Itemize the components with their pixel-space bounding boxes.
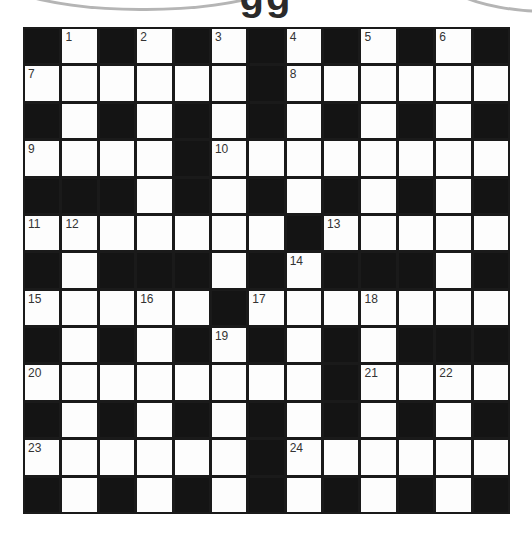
crossword-cell[interactable]: 12	[62, 216, 96, 250]
crossword-cell[interactable]	[249, 365, 283, 399]
crossword-cell[interactable]	[474, 365, 508, 399]
crossword-cell[interactable]	[212, 216, 246, 250]
crossword-cell[interactable]	[361, 104, 395, 138]
crossword-cell[interactable]: 14	[287, 253, 321, 287]
crossword-cell[interactable]: 1	[62, 29, 96, 63]
crossword-cell[interactable]	[324, 141, 358, 175]
crossword-cell[interactable]	[436, 478, 470, 512]
crossword-cell[interactable]	[249, 141, 283, 175]
crossword-cell[interactable]	[436, 216, 470, 250]
crossword-cell[interactable]	[436, 66, 470, 100]
crossword-cell[interactable]	[399, 291, 433, 325]
crossword-cell[interactable]	[137, 328, 171, 362]
crossword-cell[interactable]	[137, 216, 171, 250]
crossword-cell[interactable]	[137, 179, 171, 213]
crossword-cell[interactable]	[474, 216, 508, 250]
crossword-cell[interactable]: 11	[25, 216, 59, 250]
crossword-cell[interactable]	[436, 291, 470, 325]
crossword-cell[interactable]	[212, 478, 246, 512]
crossword-cell[interactable]: 6	[436, 29, 470, 63]
crossword-cell[interactable]	[287, 179, 321, 213]
crossword-cell[interactable]: 24	[287, 440, 321, 474]
crossword-cell[interactable]: 15	[25, 291, 59, 325]
crossword-cell[interactable]	[361, 216, 395, 250]
crossword-cell[interactable]	[361, 66, 395, 100]
crossword-cell[interactable]: 3	[212, 29, 246, 63]
crossword-cell[interactable]	[62, 66, 96, 100]
crossword-cell[interactable]	[62, 403, 96, 437]
crossword-cell[interactable]	[212, 253, 246, 287]
crossword-cell[interactable]	[175, 66, 209, 100]
crossword-cell[interactable]	[62, 328, 96, 362]
crossword-cell[interactable]	[287, 403, 321, 437]
crossword-cell[interactable]	[361, 179, 395, 213]
crossword-cell[interactable]	[287, 478, 321, 512]
crossword-cell[interactable]: 22	[436, 365, 470, 399]
crossword-cell[interactable]	[212, 179, 246, 213]
crossword-cell[interactable]	[287, 365, 321, 399]
crossword-cell[interactable]: 17	[249, 291, 283, 325]
crossword-cell[interactable]	[249, 216, 283, 250]
crossword-cell[interactable]	[137, 66, 171, 100]
crossword-cell[interactable]	[361, 478, 395, 512]
crossword-cell[interactable]	[399, 141, 433, 175]
crossword-cell[interactable]	[399, 440, 433, 474]
crossword-cell[interactable]: 16	[137, 291, 171, 325]
crossword-cell[interactable]	[399, 365, 433, 399]
crossword-cell[interactable]	[324, 291, 358, 325]
crossword-cell[interactable]	[474, 440, 508, 474]
crossword-cell[interactable]	[436, 253, 470, 287]
crossword-cell[interactable]	[175, 216, 209, 250]
crossword-cell[interactable]: 21	[361, 365, 395, 399]
crossword-cell[interactable]	[212, 440, 246, 474]
crossword-cell[interactable]	[212, 365, 246, 399]
crossword-cell[interactable]	[62, 104, 96, 138]
crossword-cell[interactable]: 7	[25, 66, 59, 100]
crossword-cell[interactable]	[287, 328, 321, 362]
crossword-cell[interactable]: 23	[25, 440, 59, 474]
crossword-cell[interactable]	[436, 141, 470, 175]
crossword-cell[interactable]	[62, 440, 96, 474]
crossword-cell[interactable]: 20	[25, 365, 59, 399]
crossword-cell[interactable]	[361, 403, 395, 437]
crossword-cell[interactable]	[212, 403, 246, 437]
crossword-cell[interactable]	[361, 328, 395, 362]
crossword-cell[interactable]	[436, 179, 470, 213]
crossword-cell[interactable]	[212, 66, 246, 100]
crossword-cell[interactable]	[324, 440, 358, 474]
crossword-cell[interactable]	[62, 141, 96, 175]
crossword-cell[interactable]	[474, 291, 508, 325]
crossword-cell[interactable]	[212, 104, 246, 138]
crossword-cell[interactable]	[287, 104, 321, 138]
crossword-cell[interactable]	[287, 141, 321, 175]
crossword-cell[interactable]: 13	[324, 216, 358, 250]
crossword-cell[interactable]	[100, 66, 134, 100]
crossword-cell[interactable]	[62, 365, 96, 399]
crossword-cell[interactable]	[137, 478, 171, 512]
crossword-cell[interactable]	[399, 216, 433, 250]
crossword-cell[interactable]	[324, 66, 358, 100]
crossword-cell[interactable]	[100, 365, 134, 399]
crossword-cell[interactable]	[137, 440, 171, 474]
crossword-cell[interactable]	[287, 291, 321, 325]
crossword-cell[interactable]	[436, 440, 470, 474]
crossword-cell[interactable]: 4	[287, 29, 321, 63]
crossword-cell[interactable]	[137, 403, 171, 437]
crossword-cell[interactable]	[62, 291, 96, 325]
crossword-cell[interactable]	[100, 291, 134, 325]
crossword-cell[interactable]: 18	[361, 291, 395, 325]
crossword-cell[interactable]	[436, 403, 470, 437]
crossword-cell[interactable]: 8	[287, 66, 321, 100]
crossword-cell[interactable]	[175, 291, 209, 325]
crossword-cell[interactable]	[137, 104, 171, 138]
crossword-cell[interactable]	[436, 104, 470, 138]
crossword-cell[interactable]	[100, 141, 134, 175]
crossword-cell[interactable]	[175, 440, 209, 474]
crossword-cell[interactable]	[100, 440, 134, 474]
crossword-cell[interactable]: 2	[137, 29, 171, 63]
crossword-cell[interactable]	[62, 253, 96, 287]
crossword-cell[interactable]	[100, 216, 134, 250]
crossword-cell[interactable]: 9	[25, 141, 59, 175]
crossword-cell[interactable]	[361, 141, 395, 175]
crossword-cell[interactable]	[474, 141, 508, 175]
